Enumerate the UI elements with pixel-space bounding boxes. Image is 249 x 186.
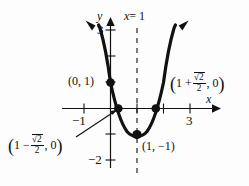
point-root-right bbox=[152, 104, 161, 113]
label-root-right-lead: 1 + bbox=[176, 76, 192, 90]
label-root-right: (1 +√22, 0) bbox=[170, 72, 225, 93]
axis-of-symmetry-label-eq: = 1 bbox=[129, 9, 145, 23]
radical-2-icon: √2 bbox=[32, 134, 43, 145]
label-vertex: (1, −1) bbox=[142, 140, 175, 152]
x-axis-label: x bbox=[206, 93, 211, 105]
label-root-left-denominator: 2 bbox=[31, 146, 44, 155]
axis-of-symmetry-label: x= 1 bbox=[124, 10, 145, 22]
label-root-right-close: ) bbox=[219, 74, 225, 94]
y-axis-label: y bbox=[97, 10, 102, 22]
label-y-intercept: (0, 1) bbox=[68, 75, 94, 87]
label-root-left-fraction: √22 bbox=[31, 134, 44, 155]
label-root-left-close: ) bbox=[57, 136, 63, 156]
label-root-left-tail: , 0 bbox=[45, 138, 57, 152]
point-vertex bbox=[132, 130, 141, 139]
graph-figure: y x 3 −2 −1 3 x= 1 (0, 1) (1, −1) (1 −√2… bbox=[0, 0, 249, 186]
label-root-left: (1 −√22, 0) bbox=[8, 134, 63, 155]
label-root-left-lead: 1 − bbox=[14, 138, 30, 152]
label-root-right-tail: , 0 bbox=[207, 76, 219, 90]
label-root-right-denominator: 2 bbox=[193, 84, 206, 93]
y-tick-label-neg2: −2 bbox=[88, 153, 102, 166]
point-y-intercept bbox=[106, 78, 115, 87]
label-root-right-fraction: √22 bbox=[193, 72, 206, 93]
y-tick-label-3: 3 bbox=[97, 23, 104, 36]
radical-2-icon: √2 bbox=[194, 72, 205, 83]
x-axis bbox=[62, 104, 221, 114]
x-tick-label-neg1: −1 bbox=[72, 114, 86, 127]
x-tick-label-3: 3 bbox=[186, 114, 193, 127]
